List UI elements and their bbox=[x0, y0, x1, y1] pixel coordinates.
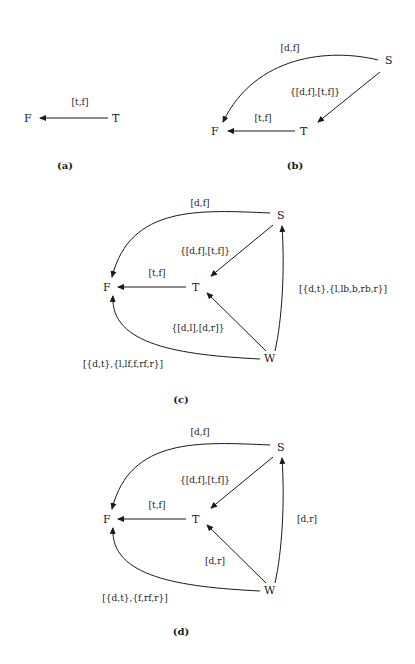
edge-label-w-t: {[d,l],[d,r]} bbox=[172, 323, 225, 333]
node-w: W bbox=[264, 584, 276, 597]
caption-b: (b) bbox=[287, 160, 303, 171]
node-t: T bbox=[192, 281, 200, 294]
edge-label-w-f: [{d,t},{l,lf,f,rf,r}] bbox=[83, 359, 163, 369]
node-t: T bbox=[300, 125, 308, 138]
caption-a: (a) bbox=[57, 160, 73, 171]
edge-w-to-t bbox=[207, 525, 266, 583]
node-s: S bbox=[277, 209, 285, 222]
diagram-canvas: F T [t,f] (a) S F T [d,f] {[d,f],[t,f]} … bbox=[0, 0, 415, 664]
node-t: T bbox=[192, 513, 200, 526]
caption-c: (c) bbox=[173, 394, 189, 405]
edge-label-w-t: [d,r] bbox=[205, 556, 225, 566]
node-f: F bbox=[24, 112, 32, 125]
edge-label-s-t: {[d,f],[t,f]} bbox=[180, 475, 230, 485]
edge-label-w-f: [{d,t},{f,rf,r}] bbox=[102, 593, 167, 603]
edge-label-s-f: [d,f] bbox=[281, 43, 300, 53]
edge-s-to-f bbox=[112, 212, 270, 277]
figure-b: S F T [d,f] {[d,f],[t,f]} [t,f] (b) bbox=[211, 43, 393, 171]
node-f: F bbox=[103, 281, 111, 294]
edge-label-t-f: [t,f] bbox=[72, 97, 89, 107]
node-s: S bbox=[385, 54, 393, 67]
node-w: W bbox=[264, 352, 276, 365]
edge-w-to-s bbox=[275, 458, 283, 583]
edge-label-s-t: {[d,f],[t,f]} bbox=[290, 87, 340, 97]
node-f: F bbox=[103, 513, 111, 526]
edge-w-to-f bbox=[113, 528, 260, 591]
figure-a: F T [t,f] (a) bbox=[24, 97, 120, 171]
edge-label-s-t: {[d,f],[t,f]} bbox=[180, 246, 230, 256]
figure-c: S F T W [d,f] {[d,f],[t,f]} [t,f] {[d,l]… bbox=[83, 198, 387, 405]
figure-d: S F T W [d,f] {[d,f],[t,f]} [t,f] [d,r] … bbox=[102, 427, 317, 637]
edge-label-s-f: [d,f] bbox=[191, 427, 210, 437]
edge-label-t-f: [t,f] bbox=[255, 113, 272, 123]
node-t: T bbox=[112, 112, 120, 125]
caption-d: (d) bbox=[173, 626, 189, 637]
edge-label-s-f: [d,f] bbox=[191, 198, 210, 208]
node-f: F bbox=[211, 125, 219, 138]
edge-label-t-f: [t,f] bbox=[149, 500, 166, 510]
edge-w-to-s bbox=[275, 226, 283, 351]
edge-label-w-s: [d,r] bbox=[297, 514, 317, 524]
edge-label-t-f: [t,f] bbox=[149, 268, 166, 278]
edge-w-to-t bbox=[207, 293, 266, 351]
node-s: S bbox=[277, 441, 285, 454]
edge-label-w-s: [{d,t},{l,lb,b,rb,r}] bbox=[299, 284, 387, 294]
edge-s-to-t bbox=[318, 72, 380, 122]
